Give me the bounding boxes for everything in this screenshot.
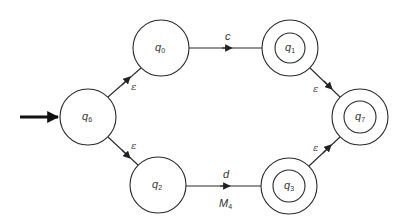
state-q2: q2 [130, 157, 186, 213]
edge-q6-q0: ε [108, 68, 141, 97]
edge-label-eps-q6-q0: ε [131, 81, 136, 92]
edge-label-c: c [225, 30, 231, 42]
edge-q3-q7: ε [309, 137, 340, 166]
edge-q0-q1: c [189, 30, 262, 48]
state-q6-start: q6 [60, 89, 116, 145]
edge-label-eps-q6-q2: ε [131, 140, 136, 151]
edge-label-eps-q1-q7: ε [313, 83, 318, 94]
machine-caption: M4 [219, 197, 232, 210]
state-q0: q0 [133, 20, 189, 76]
state-q3: q3 [261, 158, 317, 214]
state-q1: q1 [262, 20, 318, 76]
edge-q2-q3: d [186, 168, 261, 186]
edge-q1-q7: ε [310, 68, 340, 97]
state-diagram: ε ε c d ε ε q0 q1 q6 q7 [0, 0, 407, 224]
edge-q6-q2: ε [108, 137, 138, 165]
edge-label-d: d [223, 168, 230, 180]
edge-label-eps-q3-q7: ε [313, 142, 318, 153]
state-q7: q7 [332, 89, 388, 145]
